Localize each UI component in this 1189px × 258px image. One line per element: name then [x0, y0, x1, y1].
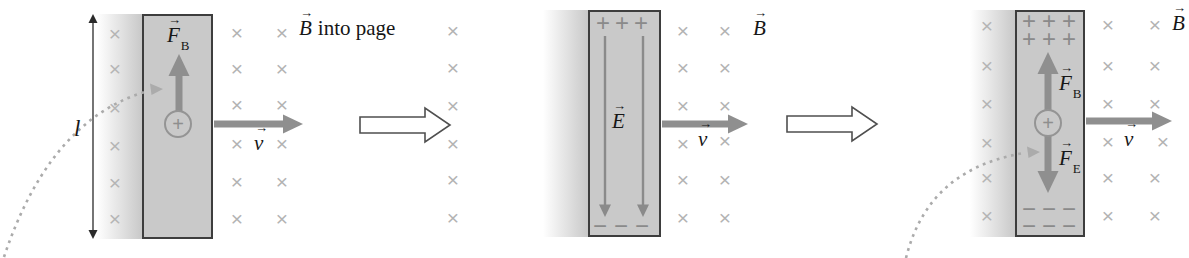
b-into-page-label: →Binto page: [299, 17, 395, 40]
fb-force-label: →FB: [167, 24, 189, 50]
vector-arrow: →: [1173, 1, 1185, 15]
negative-charge-sign: −: [635, 214, 649, 238]
b-field-label: →B: [753, 17, 766, 40]
positive-charge-icon: +: [1034, 109, 1062, 137]
positive-charge-sign: +: [615, 11, 629, 35]
vector-arrow: →: [754, 6, 766, 20]
velocity-label: →v: [1124, 128, 1133, 151]
vector-arrow: →: [255, 121, 267, 135]
vector-arrow: →: [613, 99, 625, 113]
vector-arrow: →: [1060, 136, 1072, 150]
negative-charge-sign: −: [614, 214, 628, 238]
b-field-label: →B: [1172, 12, 1185, 35]
negative-charge-sign: −: [593, 214, 607, 238]
annotations-layer: + l →FB →v →Binto page + + + − − − →E →v…: [0, 0, 1189, 258]
efield-label: →E: [612, 110, 625, 133]
fe-force-label: →FE: [1059, 147, 1080, 173]
positive-charge-icon: +: [164, 110, 192, 138]
velocity-label: →v: [698, 128, 707, 151]
positive-charge-sign: +: [1062, 27, 1076, 51]
vector-arrow: →: [300, 6, 312, 20]
positive-charge-sign: +: [1022, 27, 1036, 51]
negative-charge-sign: −: [1042, 214, 1056, 238]
positive-charge-sign: +: [1042, 27, 1056, 51]
vector-arrow: →: [168, 13, 180, 27]
length-label: l: [74, 116, 80, 141]
negative-charge-sign: −: [1022, 214, 1036, 238]
vector-arrow: →: [699, 117, 711, 131]
fb-force-label: →FB: [1059, 72, 1081, 98]
negative-charge-sign: −: [1062, 214, 1076, 238]
positive-charge-sign: +: [596, 11, 610, 35]
vector-arrow: →: [1060, 61, 1072, 75]
velocity-label: →v: [254, 132, 263, 155]
vector-arrow: →: [1125, 117, 1137, 131]
positive-charge-sign: +: [634, 11, 648, 35]
